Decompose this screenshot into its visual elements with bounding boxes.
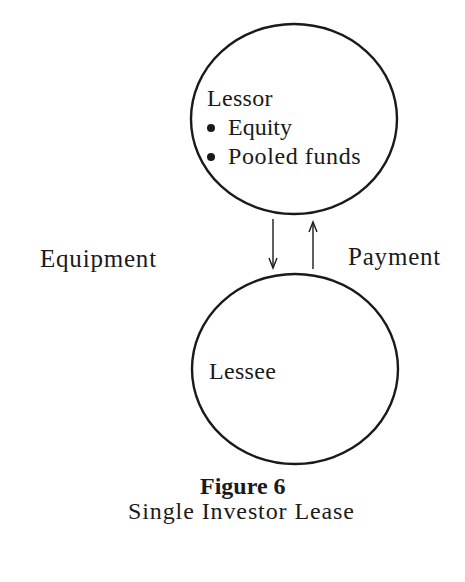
figure-subtitle: Single Investor Lease [128, 499, 355, 523]
bullet-text: Equity [228, 115, 292, 139]
equipment-arrow-down [269, 219, 277, 268]
lessee-label: Lessee [209, 359, 276, 383]
equipment-edge-label: Equipment [40, 246, 157, 271]
payment-arrow-up [309, 222, 317, 269]
bullet-icon [207, 153, 215, 161]
bullet-icon [207, 124, 215, 132]
figure-title: Figure 6 [200, 474, 286, 498]
lessor-bullet-equity: Equity [207, 115, 292, 139]
lessor-label: Lessor [207, 86, 273, 110]
bullet-text: Pooled funds [228, 144, 361, 168]
lessor-bullet-pooled-funds: Pooled funds [207, 144, 361, 168]
diagram-canvas: Lessor Equity Pooled funds Equipment Pay… [0, 0, 465, 582]
payment-edge-label: Payment [348, 244, 441, 269]
